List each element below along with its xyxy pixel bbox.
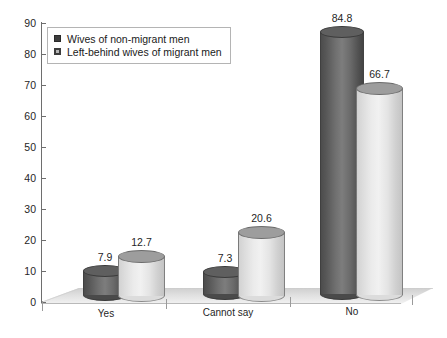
bar-chart: 0 10 20 30 40 50 60 70 80 90: [0, 0, 447, 338]
y-tick-10: 10: [0, 266, 36, 276]
category-separator-1: [166, 299, 167, 309]
y-tick-mark-10: [41, 271, 46, 272]
y-tick-label-40: 40: [12, 173, 36, 183]
y-tick-mark-60: [41, 116, 46, 117]
category-label-no: No: [322, 306, 382, 318]
y-tick-label-90: 90: [12, 18, 36, 28]
chart-legend: Wives of non-migrant men Left-behind wiv…: [47, 27, 231, 64]
cylinder-top: [356, 82, 403, 95]
legend-swatch-dark-icon: [54, 35, 61, 42]
y-tick-90: 90: [0, 18, 36, 28]
cylinder-top: [118, 250, 165, 263]
cylinder-top: [320, 26, 364, 38]
bar-no-left-behind-wives-of-migrant-men: [356, 82, 403, 307]
y-tick-label-20: 20: [12, 235, 36, 245]
y-tick-mark-30: [41, 209, 46, 210]
legend-label-0: Wives of non-migrant men: [67, 33, 190, 45]
category-separator-0: [42, 301, 43, 311]
category-label-yes: Yes: [76, 308, 136, 320]
y-tick-label-10: 10: [12, 266, 36, 276]
y-tick-label-50: 50: [12, 142, 36, 152]
y-tick-mark-70: [41, 85, 46, 86]
y-tick-80: 80: [0, 49, 36, 59]
y-tick-70: 70: [0, 80, 36, 90]
bar-value-yes-light: 12.7: [118, 237, 165, 248]
category-label-cannot-say: Cannot say: [188, 307, 268, 319]
bar-value-no-dark: 84.8: [320, 13, 364, 24]
cylinder-body: [356, 89, 403, 295]
y-tick-label-80: 80: [12, 49, 36, 59]
y-tick-30: 30: [0, 204, 36, 214]
y-tick-label-70: 70: [12, 80, 36, 90]
y-tick-50: 50: [0, 142, 36, 152]
y-tick-mark-90: [41, 23, 46, 24]
legend-label-1: Left-behind wives of migrant men: [67, 46, 222, 58]
y-tick-20: 20: [0, 235, 36, 245]
cylinder-body: [238, 233, 285, 296]
y-tick-label-0: 0: [12, 297, 36, 307]
bar-cannot-say-left-behind-wives-of-migrant-men: [238, 226, 285, 307]
y-tick-0: 0: [0, 297, 36, 307]
cylinder-top: [238, 226, 285, 239]
legend-swatch-light-icon: [54, 48, 61, 55]
y-axis-line: [41, 22, 42, 303]
category-separator-2: [290, 297, 291, 307]
legend-item-wives-of-non-migrant-men[interactable]: Wives of non-migrant men: [54, 32, 222, 45]
bar-value-no-light: 66.7: [356, 69, 403, 80]
y-tick-mark-20: [41, 240, 46, 241]
y-tick-label-60: 60: [12, 111, 36, 121]
bar-value-cannot-say-light: 20.6: [238, 213, 285, 224]
y-tick-mark-80: [41, 54, 46, 55]
y-tick-label-30: 30: [12, 204, 36, 214]
y-tick-mark-40: [41, 178, 46, 179]
category-separator-3: [412, 295, 413, 305]
y-tick-40: 40: [0, 173, 36, 183]
bar-yes-left-behind-wives-of-migrant-men: [118, 250, 165, 307]
y-tick-60: 60: [0, 111, 36, 121]
legend-item-left-behind-wives-of-migrant-men[interactable]: Left-behind wives of migrant men: [54, 45, 222, 58]
y-tick-mark-50: [41, 147, 46, 148]
